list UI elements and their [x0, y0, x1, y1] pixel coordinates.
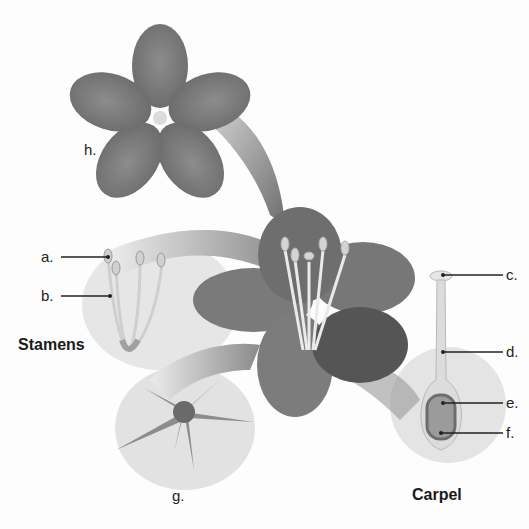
flower-illustration — [0, 0, 529, 529]
label-e: e. — [506, 395, 519, 410]
petals-flower — [62, 24, 258, 211]
label-g: g. — [172, 488, 185, 503]
label-f: f. — [506, 425, 514, 440]
carpel-title: Carpel — [412, 487, 462, 503]
label-a: a. — [41, 249, 54, 264]
label-h: h. — [84, 142, 97, 157]
label-c: c. — [506, 267, 518, 282]
label-b: b. — [41, 288, 54, 303]
stamens-title: Stamens — [18, 337, 85, 353]
flower-diagram: a. b. Stamens c. d. e. f. Carpel g. h. — [0, 0, 529, 529]
label-d: d. — [506, 344, 519, 359]
